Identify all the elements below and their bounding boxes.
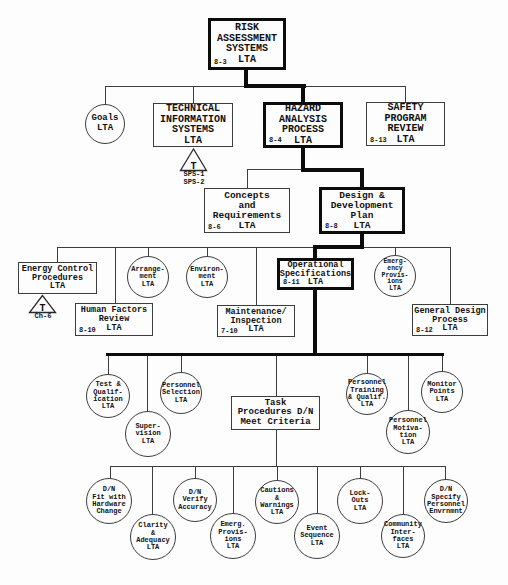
node-personnel-motivation: Personnel Motiva- tion LTA [386,410,430,454]
node-label: Arrange- ment LTA [131,266,165,288]
node-goals: Goals LTA [85,104,125,144]
node-label: Personnel Selection LTA [162,382,200,404]
node-operational-specifications: Operational Specifications LTA 8-11 [277,258,354,290]
node-task-procedures-criteria: Task Procedures D/N Meet Criteria [231,396,320,430]
node-label: Concepts and Requirements LTA [213,191,281,231]
node-general-design-process: General Design Process LTA 8-12 [412,304,488,336]
connector-line [57,247,58,262]
node-label: Emerg- ency Provis- ions LTA [382,259,409,293]
connector-line-bold [106,353,444,356]
connector-line [115,247,116,304]
connector-line [108,355,109,375]
node-label: SAFETY PROGRAM REVIEW LTA [384,103,426,145]
node-label: Cautions & Warnings LTA [260,487,294,517]
transfer-refs: Ch-6 [26,313,60,321]
node-arrangement: Arrange- ment LTA [127,256,169,298]
node-ref: 8-3 [214,58,227,66]
node-label: Task Procedures D/N Meet Criteria [238,399,314,428]
node-ref: 8-13 [370,136,387,144]
transfer-triangle-icon: T [28,294,57,314]
node-ref: 8-12 [416,326,433,334]
connector-line [408,355,409,411]
fault-tree-diagram: RISK ASSESSMENT SYSTEMS LTA 8-3 Goals LT… [0,0,508,585]
node-safety-program-review: SAFETY PROGRAM REVIEW LTA 8-13 [366,102,445,146]
node-label: Monitor Points LTA [427,381,456,403]
node-label: D/N Fit with Hardware Change [92,486,126,516]
node-label: D/N Verify Accuracy [178,489,212,511]
node-cautions-warnings: Cautions & Warnings LTA [255,480,299,524]
node-hazard-analysis-process: HAZARD ANALYSIS PROCESS LTA 8-4 [263,102,343,148]
node-risk-assessment-systems: RISK ASSESSMENT SYSTEMS LTA 8-3 [208,18,286,70]
node-label: Emerg. Provis- ions LTA [218,521,247,551]
node-label: Super- vision LTA [135,423,160,445]
node-monitor-points: Monitor Points LTA [421,371,463,413]
node-dn-verify-accuracy: D/N Verify Accuracy [173,478,217,522]
node-supervision: Super- vision LTA [125,411,171,457]
connector-line [193,86,194,103]
node-ref: 8-10 [79,326,96,334]
node-dn-fit-hardware-change: D/N Fit with Hardware Change [86,478,132,524]
connector-line-bold [313,245,364,249]
node-human-factors-review: Human Factors Review LTA 8-10 [75,303,153,336]
connector-line [247,169,248,188]
node-label: TECHNICAL INFORMATION SYSTEMS LTA [160,104,226,146]
connector-line [110,466,446,467]
node-energy-control-procedures: Energy Control Procedures LTA [18,262,97,294]
connector-line [317,466,318,513]
connector-line [276,355,277,396]
node-event-sequence: Event Sequence LTA [294,513,340,559]
node-ref: 8-11 [283,278,300,286]
node-maintenance-inspection: Maintenance/ Inspection LTA 7-10 [217,305,295,337]
node-lock-outs: Lock- Outs LTA [337,478,383,524]
connector-line-bold [301,84,305,103]
connector-line [152,466,153,514]
node-environment: Environ- ment LTA [186,256,228,298]
connector-line [405,86,406,102]
connector-line [233,466,234,513]
node-emergency-provisions: Emerg- ency Provis- ions LTA [374,255,416,297]
transfer-refs: SPS-1 SPS-2 [174,171,214,186]
connector-line [276,430,277,467]
node-label: HAZARD ANALYSIS PROCESS LTA [279,104,327,146]
node-label: Goals LTA [91,114,118,133]
node-label: Personnel Motiva- tion LTA [389,417,427,447]
transfer-triangle-icon: T [179,147,208,172]
node-ref: 7-10 [221,327,238,335]
connector-line-bold [244,84,306,88]
connector-line-bold [360,168,364,188]
connector-line-bold [313,245,317,259]
node-technical-information-systems: TECHNICAL INFORMATION SYSTEMS LTA [153,103,233,147]
node-label: Environ- ment LTA [190,266,224,288]
connector-line-bold [313,287,317,356]
node-label: Lock- Outs LTA [349,490,370,512]
node-ref: 8-4 [269,136,282,144]
connector-line [181,355,182,373]
connector-line [367,355,368,374]
connector-line [147,355,148,412]
node-test-qualification: Test & Qualif- ication LTA [86,374,130,418]
node-community-interfaces: Community Inter- faces LTA [381,514,425,558]
node-label: Clarity & Adequacy LTA [136,522,170,552]
node-label: Test & Qualif- ication LTA [93,381,122,411]
node-personnel-training-qualif: Personnel Training & Qualif. LTA [346,373,388,415]
node-concepts-requirements: Concepts and Requirements LTA 8-6 [204,188,290,233]
node-label: Personnel Training & Qualif. LTA [348,379,386,409]
node-ref: 8-6 [208,223,221,231]
connector-line [105,86,106,104]
node-personnel-selection: Personnel Selection LTA [160,372,202,414]
node-label: Energy Control Procedures LTA [22,265,93,292]
connector-line-bold [301,168,364,172]
node-label: Design & Development Plan LTA [331,191,394,231]
connector-line [403,466,404,514]
connector-line [277,466,278,481]
connector-line [445,466,446,480]
node-ref: 8-8 [325,222,338,230]
node-label: Community Inter- faces LTA [384,521,422,551]
connector-line [442,355,443,372]
node-label: Event Sequence LTA [300,525,334,547]
node-clarity-adequacy: Clarity & Adequacy LTA [130,514,176,560]
node-label: D/N Specify Personnel Envrnmnt [427,486,465,516]
connector-line [247,169,303,170]
connector-line [450,247,451,305]
node-design-development-plan: Design & Development Plan LTA 8-8 [319,187,405,234]
